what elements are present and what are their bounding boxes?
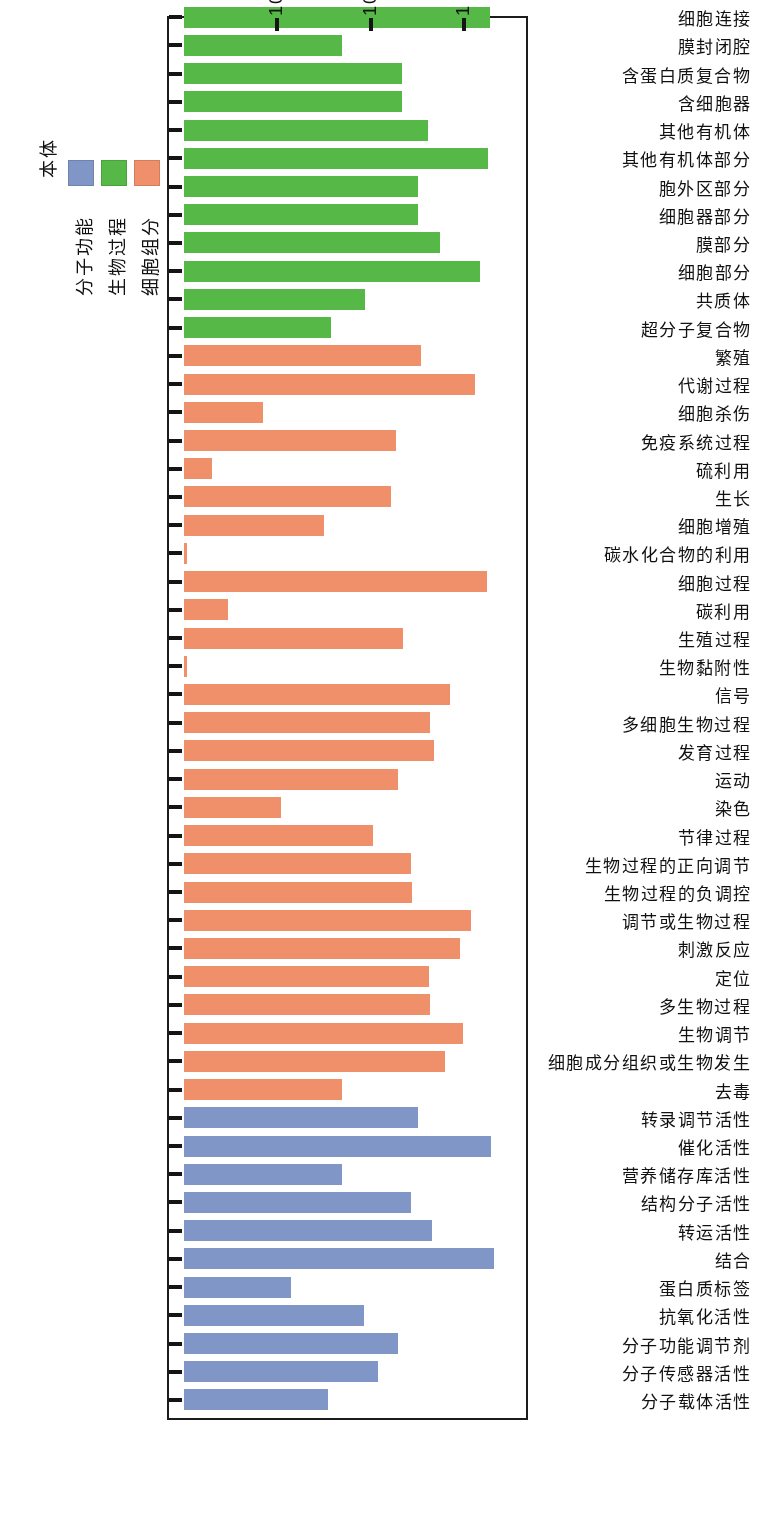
bar-row [184,402,263,423]
bar-row [184,148,488,169]
bar [184,261,480,282]
bar-row [184,910,471,931]
category-tick [169,213,182,217]
category-tick [169,43,182,47]
bar [184,91,402,112]
category-tick [169,495,182,499]
category-label: 染色 [715,801,752,818]
category-label: 多细胞生物过程 [623,717,753,734]
bar-row [184,994,430,1015]
category-tick [169,1031,182,1035]
category-label: 分子载体活性 [641,1394,752,1411]
category-label: 调节或生物过程 [623,914,753,931]
category-label: 蛋白质标签 [660,1281,753,1298]
bar [184,994,430,1015]
category-tick [169,1257,182,1261]
category-tick [169,1229,182,1233]
category-tick [169,1088,182,1092]
bar-row [184,966,429,987]
bar-row [184,7,490,28]
bar [184,120,428,141]
category-label: 代谢过程 [678,378,752,395]
bar-row [184,1333,398,1354]
bar-row [184,882,412,903]
category-label: 含细胞器 [678,96,752,113]
category-tick [169,1200,182,1204]
bar-row [184,120,428,141]
bar-row [184,1051,445,1072]
category-tick [169,551,182,555]
category-tick [169,1370,182,1374]
category-label: 结构分子活性 [641,1196,752,1213]
bar [184,345,421,366]
category-tick [169,410,182,414]
bar-row [184,825,373,846]
bar [184,1248,494,1269]
bar [184,317,331,338]
category-tick [169,523,182,527]
bar [184,515,324,536]
category-label: 营养储存库活性 [623,1168,753,1185]
legend-title: 本体 [34,138,60,178]
category-tick [169,664,182,668]
bar-row [184,1107,418,1128]
category-tick [169,439,182,443]
category-tick [169,749,182,753]
bar [184,882,412,903]
go-annotation-figure: 分子载体活性分子传感器活性分子功能调节剂抗氧化活性蛋白质标签结合转运活性结构分子… [0,0,780,1516]
category-tick [169,1116,182,1120]
bar [184,740,434,761]
bar [184,204,418,225]
category-label: 细胞过程 [678,576,752,593]
category-label: 细胞增殖 [678,519,752,536]
category-tick [169,1059,182,1063]
bar [184,571,487,592]
category-label: 信号 [715,689,752,706]
plot-area [167,16,528,1420]
bar [184,289,365,310]
bar-row [184,1136,491,1157]
legend-label: 细胞组分 [136,216,162,296]
bar-row [184,63,402,84]
bar [184,797,281,818]
bar [184,1361,378,1382]
bar-row [184,769,398,790]
legend-swatch [134,160,160,186]
bar-row [184,317,331,338]
category-label: 生物调节 [678,1027,752,1044]
category-tick [169,721,182,725]
category-label: 生物黏附性 [660,660,753,677]
legend-swatch [101,160,127,186]
category-tick [169,382,182,386]
category-label: 碳利用 [697,604,753,621]
category-label: 细胞杀伤 [678,406,752,423]
category-label: 定位 [715,971,752,988]
category-tick [169,1342,182,1346]
category-tick [169,862,182,866]
category-tick [169,918,182,922]
bar [184,628,403,649]
bar [184,825,373,846]
bar-row [184,1390,328,1411]
bar [184,1136,491,1157]
bar [184,1305,364,1326]
bar-row [184,91,402,112]
category-tick [169,636,182,640]
category-label: 分子功能调节剂 [623,1338,753,1355]
category-tick [169,1313,182,1317]
bar-row [184,1220,432,1241]
category-label: 转录调节活性 [641,1112,752,1129]
bar-row [184,938,460,959]
legend: 本体 细胞组分生物过程分子功能 [10,86,160,296]
category-tick [169,946,182,950]
category-label: 分子传感器活性 [623,1366,753,1383]
bar-row [184,176,418,197]
category-tick [169,185,182,189]
category-label: 转运活性 [678,1225,752,1242]
category-axis-labels: 分子载体活性分子传感器活性分子功能调节剂抗氧化活性蛋白质标签结合转运活性结构分子… [530,16,780,1420]
category-tick [169,72,182,76]
category-label: 生长 [715,491,752,508]
category-tick [169,890,182,894]
bar-row [184,232,440,253]
category-tick [169,1398,182,1402]
